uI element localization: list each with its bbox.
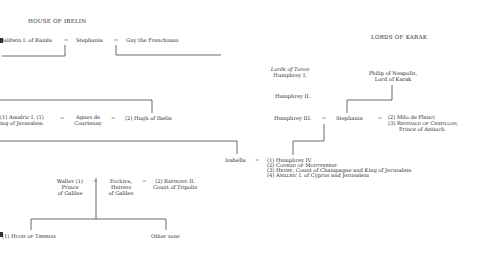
- person-humphrey-2: Humphrey II.: [275, 93, 310, 99]
- marriage-symbol: =: [60, 115, 64, 121]
- person-stephania-ibelin: Stephania: [76, 37, 103, 43]
- isabella-spouse-4: (4) Amalric I. of Cyprus and Jerusalem: [267, 172, 369, 178]
- person-humphrey-3: Humphrey III.: [274, 115, 311, 121]
- amalric-cyprus-name: (4) Amalric: [267, 172, 297, 178]
- person-philip-of-neapolis: Philip of Neapolis, Lord of Karak: [360, 70, 426, 82]
- heading-house-of-ibelin: HOUSE OF IBELIN: [28, 18, 86, 24]
- marriage-symbol: =: [322, 115, 326, 121]
- person-agnes: Agnes de Courtenay: [70, 114, 106, 126]
- person-baldwin: Baldwin I. of Ramla: [0, 37, 52, 43]
- raymond-line-2: Count of Tripolis: [150, 184, 200, 190]
- walter-line-3: of Galilee: [52, 190, 88, 196]
- person-hugh-of-ibelin: (2) Hugh of Ibelin: [125, 115, 172, 121]
- marriage-symbol: =: [93, 178, 97, 184]
- marriage-symbol: =: [111, 115, 115, 121]
- marriage-symbol: =: [378, 115, 382, 121]
- person-humphrey-1: Humphrey I.: [268, 72, 312, 78]
- person-walter: Walter (1) Prince of Galilee: [52, 178, 88, 196]
- marriage-symbol: =: [64, 37, 68, 43]
- philip-line-2: Lord of Karak: [360, 76, 426, 82]
- agnes-line-2: Courtenay: [70, 120, 106, 126]
- person-raymond: (2) Raymond II. Count of Tripolis: [150, 178, 200, 190]
- heading-lords-of-karak: LORDS OF KARAK: [371, 34, 427, 40]
- marriage-symbol: =: [114, 37, 118, 43]
- person-eschiva: Eschiva, Heiress of Galilee: [104, 178, 138, 196]
- eschiva-line-3: of Galilee: [104, 190, 138, 196]
- marriage-symbol: =: [142, 178, 146, 184]
- stephania-spouse-3-title: Prince of Antioch: [399, 126, 445, 132]
- amalric-line-2: King of Jerusalem: [0, 120, 44, 126]
- person-guy: Guy the Frenchman: [126, 37, 178, 43]
- marriage-symbol: =: [255, 157, 259, 163]
- person-amalric: (1) Amalric I. (1) King of Jerusalem: [0, 114, 44, 126]
- amalric-cyprus-title: I. of Cyprus and Jerusalem: [297, 172, 369, 178]
- other-sons: Other sons: [151, 233, 180, 239]
- person-isabella: Isabella: [225, 157, 246, 163]
- person-hugh-of-tiberias: (1) Hugh of Tiberias: [2, 233, 56, 239]
- person-stephania-karak: Stephania: [336, 115, 363, 121]
